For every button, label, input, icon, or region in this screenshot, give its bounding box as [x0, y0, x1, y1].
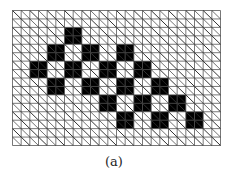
- cell-diagonal: [21, 19, 30, 27]
- cell-diagonal: [117, 103, 126, 111]
- cell-diagonal: [212, 120, 221, 128]
- cell-diagonal: [47, 61, 56, 69]
- cell-diagonal: [203, 86, 212, 94]
- cell-diagonal: [177, 36, 186, 44]
- cell-diagonal: [91, 61, 100, 69]
- cell-diagonal: [47, 36, 56, 44]
- cell-diagonal: [13, 36, 22, 44]
- cell-diagonal: [91, 112, 100, 120]
- cell-diagonal: [169, 44, 178, 52]
- cell-diagonal: [108, 129, 117, 137]
- cell-diagonal: [117, 137, 126, 145]
- cell-diagonal: [203, 120, 212, 128]
- cell-diagonal: [56, 137, 65, 145]
- cell-diagonal: [39, 129, 48, 137]
- cell-diagonal: [195, 53, 204, 61]
- cell-diagonal: [212, 103, 221, 111]
- cell-diagonal: [21, 120, 30, 128]
- cell-diagonal: [108, 53, 117, 61]
- cell-diagonal: [30, 112, 39, 120]
- cell-diagonal: [99, 129, 108, 137]
- cell-diagonal: [13, 53, 22, 61]
- cell-diagonal: [203, 103, 212, 111]
- cell-diagonal: [82, 120, 91, 128]
- cell-diagonal: [117, 95, 126, 103]
- cell-diagonal: [143, 112, 152, 120]
- cell-diagonal: [203, 70, 212, 78]
- cell-diagonal: [91, 19, 100, 27]
- cell-diagonal: [195, 70, 204, 78]
- cell-diagonal: [108, 86, 117, 94]
- cell-diagonal: [108, 27, 117, 35]
- cell-diagonal: [134, 112, 143, 120]
- cell-diagonal: [117, 61, 126, 69]
- cell-diagonal: [39, 44, 48, 52]
- cell-diagonal: [177, 11, 186, 19]
- cell-diagonal: [212, 137, 221, 145]
- cell-diagonal: [108, 137, 117, 145]
- cell-diagonal: [39, 112, 48, 120]
- cell-diagonal: [21, 95, 30, 103]
- cell-diagonal: [177, 44, 186, 52]
- cell-diagonal: [186, 78, 195, 86]
- cell-diagonal: [186, 61, 195, 69]
- cell-diagonal: [73, 78, 82, 86]
- cell-diagonal: [151, 19, 160, 27]
- cell-diagonal: [186, 44, 195, 52]
- cell-diagonal: [212, 53, 221, 61]
- cell-diagonal: [203, 11, 212, 19]
- cell-diagonal: [65, 78, 74, 86]
- cell-diagonal: [186, 95, 195, 103]
- cell-diagonal: [82, 19, 91, 27]
- cell-diagonal: [82, 129, 91, 137]
- cell-diagonal: [13, 103, 22, 111]
- cell-diagonal: [21, 78, 30, 86]
- cell-diagonal: [186, 11, 195, 19]
- cell-diagonal: [160, 36, 169, 44]
- cell-diagonal: [195, 44, 204, 52]
- cell-diagonal: [134, 36, 143, 44]
- cell-diagonal: [151, 11, 160, 19]
- cell-diagonal: [160, 129, 169, 137]
- cell-diagonal: [21, 36, 30, 44]
- cell-diagonal: [117, 129, 126, 137]
- cell-diagonal: [13, 95, 22, 103]
- cell-diagonal: [177, 27, 186, 35]
- cell-diagonal: [108, 112, 117, 120]
- cell-diagonal: [143, 86, 152, 94]
- cell-diagonal: [212, 112, 221, 120]
- cell-diagonal: [195, 78, 204, 86]
- cell-diagonal: [30, 36, 39, 44]
- cell-diagonal: [56, 19, 65, 27]
- cell-diagonal: [117, 19, 126, 27]
- cell-diagonal: [117, 36, 126, 44]
- cell-diagonal: [21, 86, 30, 94]
- cell-diagonal: [108, 19, 117, 27]
- cell-diagonal: [160, 70, 169, 78]
- cell-diagonal: [47, 120, 56, 128]
- cell-diagonal: [56, 129, 65, 137]
- cell-diagonal: [13, 70, 22, 78]
- cell-diagonal: [134, 120, 143, 128]
- cell-diagonal: [39, 95, 48, 103]
- cell-diagonal: [134, 44, 143, 52]
- cell-diagonal: [13, 11, 22, 19]
- cell-diagonal: [134, 137, 143, 145]
- cell-diagonal: [134, 86, 143, 94]
- cell-diagonal: [108, 120, 117, 128]
- cell-diagonal: [21, 103, 30, 111]
- cell-diagonal: [47, 70, 56, 78]
- cell-diagonal: [195, 61, 204, 69]
- cell-diagonal: [169, 137, 178, 145]
- cell-diagonal: [56, 70, 65, 78]
- cell-diagonal: [195, 19, 204, 27]
- cell-diagonal: [195, 27, 204, 35]
- cell-diagonal: [73, 53, 82, 61]
- cell-diagonal: [73, 11, 82, 19]
- cell-diagonal: [65, 11, 74, 19]
- cell-diagonal: [82, 95, 91, 103]
- cell-diagonal: [160, 27, 169, 35]
- cell-diagonal: [73, 137, 82, 145]
- cell-diagonal: [99, 19, 108, 27]
- cell-diagonal: [73, 95, 82, 103]
